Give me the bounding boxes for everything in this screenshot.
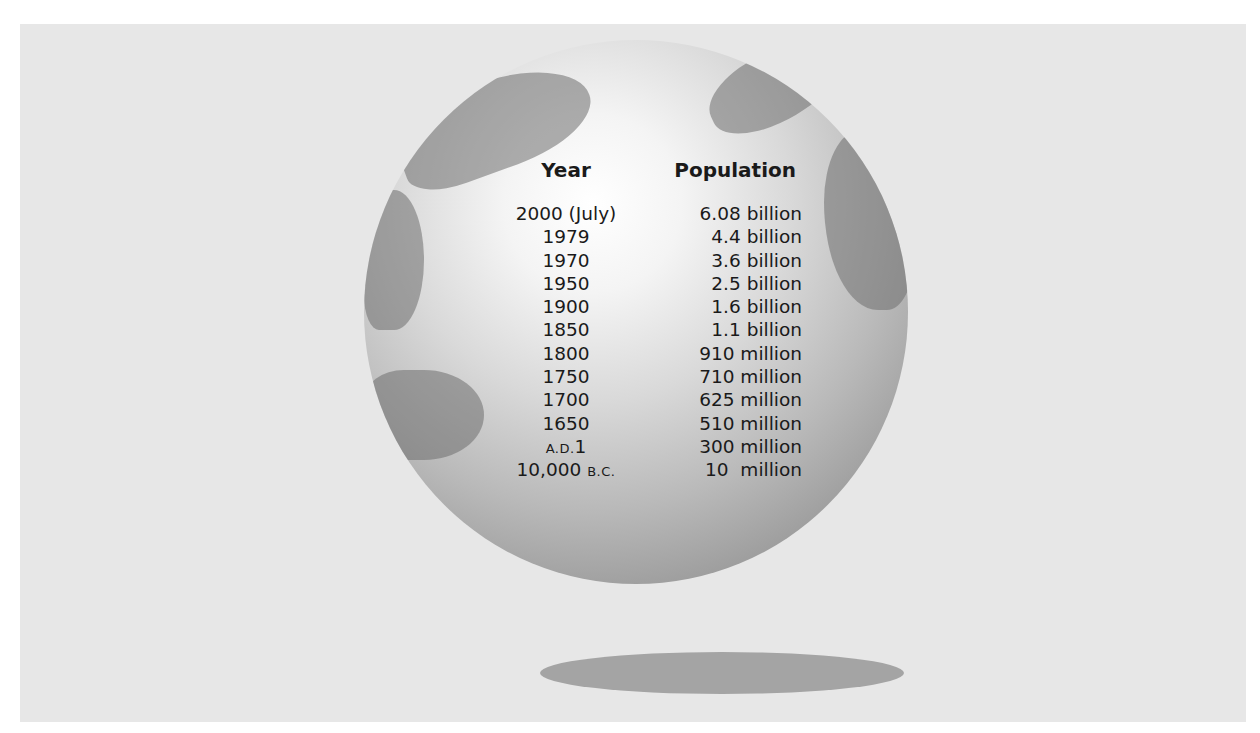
landmass-west: [364, 190, 424, 330]
population-cell: 4.4 billion: [626, 225, 802, 248]
table-row: 1650510 million: [506, 412, 806, 435]
landmass-east: [824, 130, 908, 310]
population-cell: 625 million: [626, 388, 802, 411]
population-table: Year Population 2000 (July)6.08 billion …: [506, 158, 806, 482]
year-cell: 2000 (July): [506, 202, 626, 225]
population-cell: 910 million: [626, 342, 802, 365]
population-cell: 2.5 billion: [626, 272, 802, 295]
year-cell: 1650: [506, 412, 626, 435]
header-year: Year: [506, 158, 626, 186]
year-cell: 1800: [506, 342, 626, 365]
era-prefix: A.D.: [546, 441, 575, 456]
population-cell: 1.1 billion: [626, 318, 802, 341]
table-row: A.D.1 300 million: [506, 435, 806, 458]
year-cell: 1900: [506, 295, 626, 318]
table-row: 1700625 million: [506, 388, 806, 411]
year-cell: 10,000 B.C.: [506, 458, 626, 481]
year-cell: A.D.1: [506, 435, 626, 458]
year-cell: 1950: [506, 272, 626, 295]
year-cell: 1850: [506, 318, 626, 341]
table-row: 1800910 million: [506, 342, 806, 365]
year-cell: 1700: [506, 388, 626, 411]
table-row: 19502.5 billion: [506, 272, 806, 295]
year-value: 1: [575, 436, 587, 457]
population-cell: 6.08 billion: [626, 202, 802, 225]
population-cell: 1.6 billion: [626, 295, 802, 318]
year-value: 10,000: [517, 459, 582, 480]
era-suffix: B.C.: [587, 464, 615, 479]
population-cell: 3.6 billion: [626, 249, 802, 272]
year-cell: 1970: [506, 249, 626, 272]
header-population: Population: [626, 158, 802, 186]
globe-shadow: [540, 652, 904, 694]
landmass-southwest: [364, 370, 484, 460]
table-row: 19703.6 billion: [506, 249, 806, 272]
population-cell: 300 million: [626, 435, 802, 458]
population-cell: 10 million: [626, 458, 802, 481]
population-cell: 510 million: [626, 412, 802, 435]
population-cell: 710 million: [626, 365, 802, 388]
table-row: 19794.4 billion: [506, 225, 806, 248]
table-row: 19001.6 billion: [506, 295, 806, 318]
table-row: 1750710 million: [506, 365, 806, 388]
table-row: 18501.1 billion: [506, 318, 806, 341]
table-header: Year Population: [506, 158, 806, 186]
table-row: 10,000 B.C. 10 million: [506, 458, 806, 481]
table-row: 2000 (July)6.08 billion: [506, 202, 806, 225]
year-cell: 1750: [506, 365, 626, 388]
year-cell: 1979: [506, 225, 626, 248]
